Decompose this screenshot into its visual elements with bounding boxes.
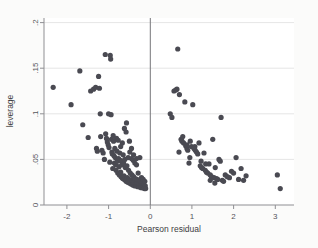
data-point: [136, 170, 141, 175]
plot-area-background: [44, 18, 294, 205]
data-point: [187, 155, 192, 160]
data-point: [176, 149, 181, 154]
data-point: [102, 157, 107, 162]
data-point: [278, 186, 283, 191]
data-point: [186, 160, 191, 165]
data-point: [184, 142, 189, 147]
data-point: [108, 112, 113, 117]
data-point: [169, 115, 174, 120]
data-point: [236, 177, 241, 182]
data-point: [185, 148, 190, 153]
data-point: [124, 163, 129, 168]
data-point: [103, 52, 108, 57]
y-tick-label-4: .2: [31, 19, 40, 26]
data-point: [106, 145, 111, 150]
data-point: [203, 161, 208, 166]
y-tick-label-2: .1: [31, 110, 40, 117]
data-point: [103, 131, 108, 136]
data-point: [208, 178, 213, 183]
data-point: [212, 181, 217, 186]
data-point: [124, 120, 129, 125]
data-point: [213, 165, 218, 170]
data-point: [241, 178, 246, 183]
data-point: [51, 85, 56, 90]
data-point: [233, 155, 238, 160]
y-tick-label-0: 0: [31, 202, 40, 207]
data-point: [134, 162, 139, 167]
data-point: [127, 139, 132, 144]
data-point: [218, 115, 223, 120]
data-point: [221, 179, 226, 184]
data-point: [98, 134, 103, 139]
data-point: [118, 144, 123, 149]
data-point: [192, 144, 197, 149]
data-point: [86, 135, 91, 140]
data-point: [129, 146, 134, 151]
y-tick-label-3: .15: [31, 62, 40, 74]
data-point: [77, 68, 82, 73]
data-point: [196, 140, 201, 145]
data-point: [123, 129, 128, 134]
data-point: [95, 149, 100, 154]
data-point: [107, 160, 112, 165]
data-point: [98, 111, 103, 116]
y-axis-title: leverage: [5, 94, 15, 127]
data-point: [201, 150, 206, 155]
data-point: [142, 179, 147, 184]
data-point: [243, 173, 248, 178]
data-point: [231, 170, 236, 175]
data-point: [121, 152, 126, 157]
data-point: [210, 137, 215, 142]
plot-canvas: -2-10123 0.05.1.15.2 Pearson residual le…: [0, 0, 318, 248]
data-point: [175, 46, 180, 51]
data-point: [198, 159, 203, 164]
x-tick-label-4: 2: [231, 212, 236, 221]
x-tick-label-0: -2: [63, 212, 71, 221]
data-point: [68, 102, 73, 107]
y-tick-label-1: .05: [31, 153, 40, 165]
data-point: [108, 56, 113, 61]
data-point: [190, 102, 195, 107]
data-point: [143, 186, 148, 191]
data-point: [275, 172, 280, 177]
data-point: [80, 122, 85, 127]
data-point: [218, 159, 223, 164]
data-point: [101, 150, 106, 155]
data-point: [238, 166, 243, 171]
data-point: [134, 156, 139, 161]
x-tick-label-3: 1: [190, 212, 195, 221]
x-tick-label-5: 3: [273, 212, 278, 221]
data-point: [227, 175, 232, 180]
data-point: [174, 87, 179, 92]
data-point: [177, 92, 182, 97]
x-axis-title: Pearson residual: [137, 224, 201, 234]
data-point: [182, 99, 187, 104]
x-tick-label-2: 0: [148, 212, 153, 221]
data-point: [97, 86, 102, 91]
scatter-plot-figure: -2-10123 0.05.1.15.2 Pearson residual le…: [0, 0, 318, 248]
data-point: [180, 134, 185, 139]
data-point: [195, 151, 200, 156]
x-tick-label-1: -1: [105, 212, 113, 221]
data-point: [96, 74, 101, 79]
